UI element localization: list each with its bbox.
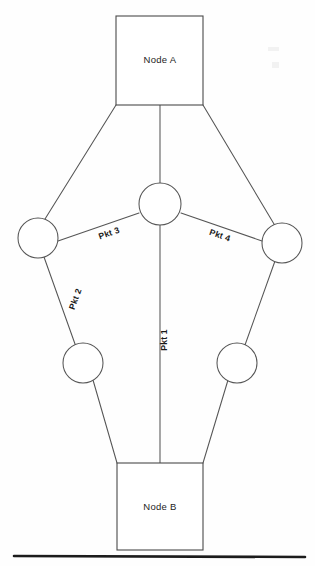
link-node-a-to-relay-left <box>45 105 116 219</box>
network-diagram: Node A Node B Pkt 1 Pkt 2 Pkt 3 Pkt 4 <box>0 0 315 566</box>
link-node-a-to-relay-right <box>203 105 274 224</box>
relay-center[interactable] <box>139 183 181 225</box>
node-b-group: Node B <box>117 463 203 550</box>
node-a-group: Node A <box>116 16 203 105</box>
bottom-rule <box>14 556 305 557</box>
relay-lower-left[interactable] <box>63 343 103 383</box>
packet-label-group: Pkt 1 Pkt 2 Pkt 3 Pkt 4 <box>67 225 232 351</box>
node-a-label: Node A <box>144 54 177 65</box>
link-relay-lower-left-to-node-b <box>93 380 117 463</box>
packet-label-pkt-1: Pkt 1 <box>159 329 169 351</box>
diagram-page: Node A Node B Pkt 1 Pkt 2 Pkt 3 Pkt 4 <box>0 0 315 566</box>
packet-label-pkt-3: Pkt 3 <box>97 225 121 241</box>
link-relay-lower-right-to-node-b <box>203 380 228 463</box>
node-b-label: Node B <box>143 501 177 512</box>
relay-right[interactable] <box>262 223 302 263</box>
relay-lower-right[interactable] <box>217 343 257 383</box>
link-relay-right-to-relay-lower-right <box>245 261 275 345</box>
packet-label-pkt-2: Pkt 2 <box>67 287 84 311</box>
relay-left[interactable] <box>18 218 58 258</box>
link-group <box>44 105 275 463</box>
